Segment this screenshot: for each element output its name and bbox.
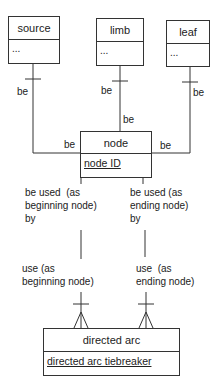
entity-name: node	[81, 132, 151, 154]
entity-name: directed arc	[44, 329, 179, 352]
end-node-side-label: be used (as ending node) by	[130, 186, 188, 225]
entity-name: source	[9, 17, 59, 40]
entity-attribute: ...	[9, 40, 59, 57]
limb-node-child-label: be	[123, 113, 134, 126]
end-arc-side-label: use (as ending node)	[136, 262, 194, 288]
entity-node[interactable]: node node ID	[80, 131, 152, 178]
entity-key-attribute: node ID	[81, 154, 151, 172]
entity-name: leaf	[167, 21, 209, 44]
entity-leaf[interactable]: leaf ...	[166, 20, 210, 67]
entity-directed-arc[interactable]: directed arc directed arc tiebreaker	[43, 328, 180, 376]
leaf-node-parent-label: be	[193, 86, 204, 99]
limb-node-parent-label: be	[101, 84, 112, 97]
entity-source[interactable]: source ...	[8, 16, 60, 64]
er-diagram: source ... limb ... leaf ... node node I…	[0, 0, 213, 389]
source-node-parent-label: be	[17, 85, 28, 98]
begin-arc-side-label: use (as beginning node)	[22, 262, 94, 288]
entity-attribute: ...	[97, 42, 143, 59]
entity-key-attribute: directed arc tiebreaker	[44, 352, 179, 370]
leaf-node-child-label: be	[160, 139, 171, 152]
begin-node-side-label: be used (as beginning node) by	[25, 186, 97, 225]
entity-name: limb	[97, 19, 143, 42]
entity-limb[interactable]: limb ...	[96, 18, 144, 66]
source-node-child-label: be	[64, 138, 75, 151]
entity-attribute: ...	[167, 44, 209, 61]
